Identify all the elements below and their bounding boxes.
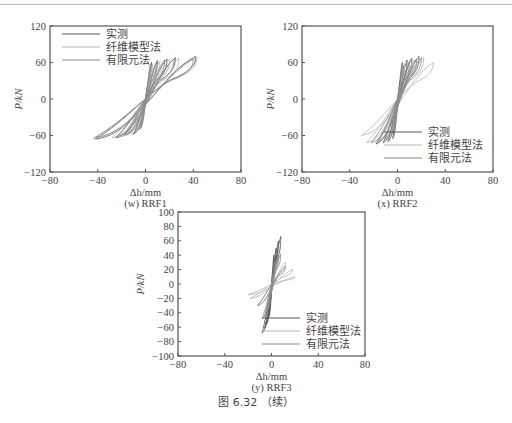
legend-entry: 实测 xyxy=(106,27,128,41)
figure-charts: −80−4004080−120−60060120P/kNΔh/mm(w) RRF… xyxy=(0,0,512,423)
hysteresis-curves xyxy=(362,56,434,144)
y-tick-label: −100 xyxy=(152,351,174,362)
y-tick-label: 60 xyxy=(36,57,47,68)
y-tick-label: −120 xyxy=(276,167,298,178)
x-tick-label: −40 xyxy=(90,175,106,186)
x-tick-label: 0 xyxy=(395,175,400,186)
legend-entry: 实测 xyxy=(306,311,328,325)
y-tick-label: 60 xyxy=(164,235,175,246)
x-tick-label: 40 xyxy=(440,175,451,186)
y-tick-label: 100 xyxy=(158,207,174,218)
y-axis-label: P/kN xyxy=(135,273,146,296)
y-tick-label: −20 xyxy=(158,293,174,304)
x-tick-label: 0 xyxy=(143,175,148,186)
curve-loop xyxy=(95,59,193,137)
x-axis-label: Δh/mm xyxy=(130,187,161,198)
x-tick-label: 80 xyxy=(360,359,371,370)
x-tick-label: 80 xyxy=(236,175,247,186)
figure-caption: 图 6.32 （续） xyxy=(0,393,512,409)
y-tick-label: 0 xyxy=(169,279,174,290)
y-tick-label: −80 xyxy=(158,336,174,347)
y-tick-label: −120 xyxy=(24,167,46,178)
y-axis-label: P/kN xyxy=(265,88,276,111)
y-tick-label: −40 xyxy=(158,307,174,318)
chart-subtitle: (x) RRF2 xyxy=(378,198,418,210)
legend-entry: 纤维模型法 xyxy=(106,40,161,54)
legend-entry: 实测 xyxy=(428,125,450,139)
x-tick-label: 40 xyxy=(313,359,324,370)
x-tick-label: −40 xyxy=(342,175,358,186)
legend: 实测纤维模型法有限元法 xyxy=(62,27,161,67)
y-axis-label: P/kN xyxy=(13,88,24,111)
y-tick-label: 0 xyxy=(41,94,46,105)
x-axis-label: Δh/mm xyxy=(382,187,413,198)
chart-3: −80−4004080−100−80−60−40−20020406080100P… xyxy=(135,207,370,395)
legend-entry: 纤维模型法 xyxy=(428,138,483,152)
y-tick-label: 0 xyxy=(293,94,298,105)
y-tick-label: 120 xyxy=(282,21,298,32)
y-tick-label: 120 xyxy=(30,21,46,32)
chart-2: −80−4004080−120−60060120P/kNΔh/mm(x) RRF… xyxy=(265,21,498,211)
curve-loop xyxy=(93,58,197,139)
legend: 实测纤维模型法有限元法 xyxy=(384,125,483,165)
y-tick-label: 40 xyxy=(164,250,175,261)
x-tick-label: −40 xyxy=(217,359,233,370)
legend-entry: 有限元法 xyxy=(428,151,472,165)
legend: 实测纤维模型法有限元法 xyxy=(262,311,361,351)
y-tick-label: 20 xyxy=(164,264,175,275)
x-tick-label: 40 xyxy=(188,175,199,186)
legend-entry: 有限元法 xyxy=(106,53,150,67)
chart-1: −80−4004080−120−60060120P/kNΔh/mm(w) RRF… xyxy=(13,21,246,211)
y-tick-label: −60 xyxy=(158,322,174,333)
legend-entry: 纤维模型法 xyxy=(306,324,361,338)
x-tick-label: 80 xyxy=(488,175,499,186)
y-tick-label: 80 xyxy=(164,221,175,232)
hysteresis-curves xyxy=(93,56,197,139)
y-tick-label: −60 xyxy=(282,130,298,141)
y-tick-label: 60 xyxy=(288,57,299,68)
x-tick-label: 0 xyxy=(269,359,274,370)
legend-entry: 有限元法 xyxy=(306,337,350,351)
y-tick-label: −60 xyxy=(30,130,46,141)
x-axis-label: Δh/mm xyxy=(256,371,287,382)
